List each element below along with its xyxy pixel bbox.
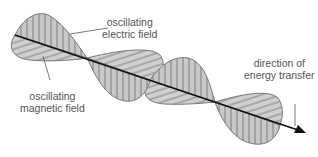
electric-label-line2: electric field <box>102 28 157 40</box>
direction-label-line1: direction of <box>244 57 315 69</box>
electric-field-label: oscillating electric field <box>102 16 157 40</box>
direction-label-line2: energy transfer <box>244 69 315 81</box>
electric-label-line1: oscillating <box>102 16 157 28</box>
direction-label: direction of energy transfer <box>244 57 315 81</box>
magnetic-label-line1: oscillating <box>20 90 85 102</box>
magnetic-label-line2: magnetic field <box>20 102 85 114</box>
direction-arrow <box>15 35 306 133</box>
magnetic-field-label: oscillating magnetic field <box>20 90 85 114</box>
